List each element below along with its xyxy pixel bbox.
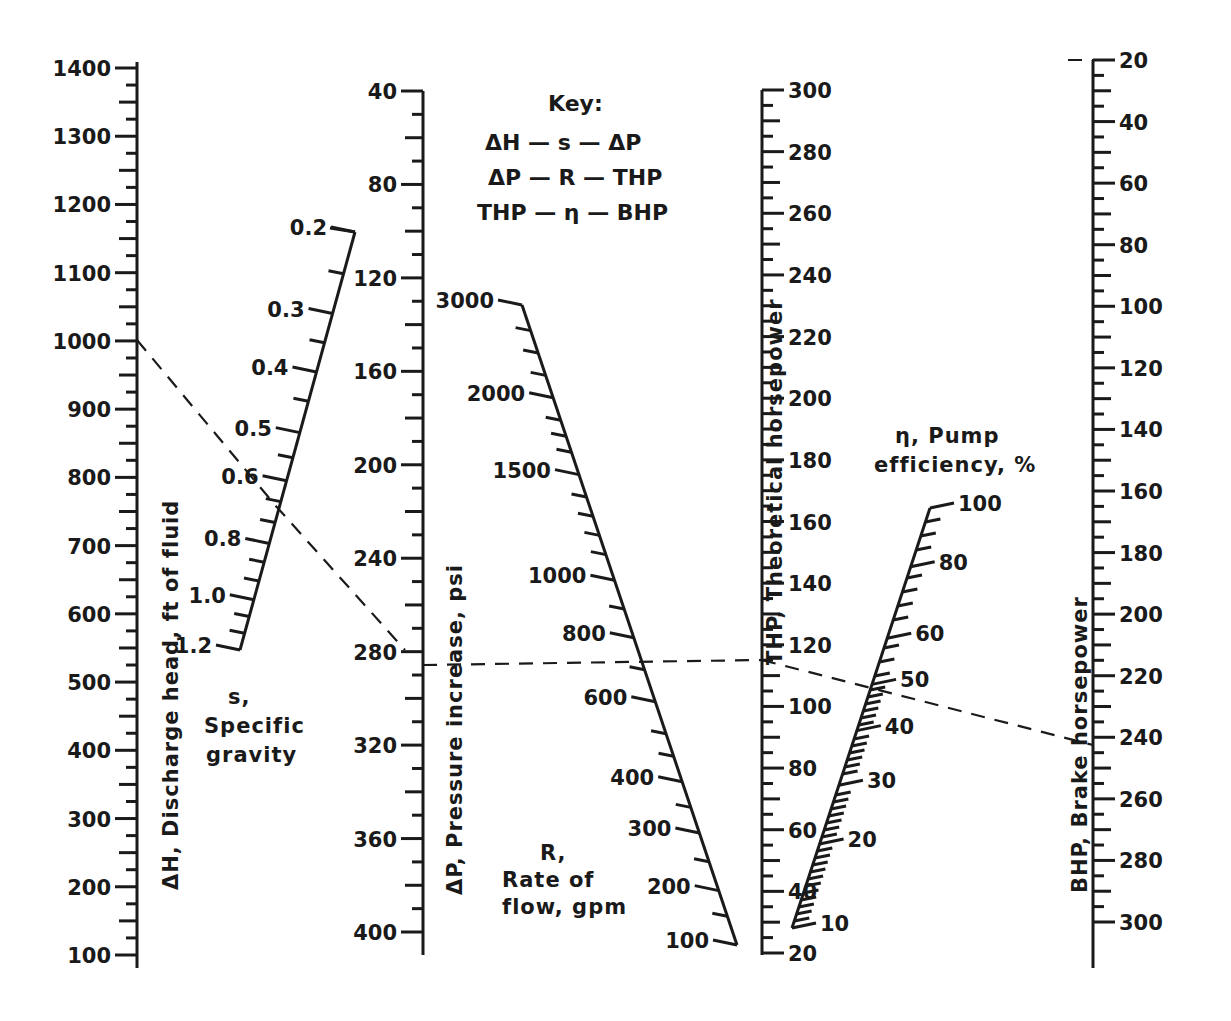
- tick-label: 200: [1119, 603, 1163, 627]
- tick-label: 120: [353, 267, 397, 291]
- tick-label: 240: [788, 264, 832, 288]
- tick-label: 20: [788, 942, 817, 966]
- tick-label: 0.2: [290, 216, 327, 240]
- tick-label: 400: [353, 921, 397, 945]
- tick-label: 40: [368, 80, 397, 104]
- tick-label: 80: [368, 173, 397, 197]
- example-solution-lines: [137, 60, 1093, 745]
- tick-label: 360: [353, 828, 397, 852]
- tick-label: 1000: [528, 564, 586, 588]
- tick-label: 2000: [467, 382, 525, 406]
- R-title-line-3: flow, gpm: [502, 895, 627, 919]
- tick-label: 0.4: [251, 356, 288, 380]
- tick-label: 260: [788, 202, 832, 226]
- tick-label: 200: [67, 876, 111, 900]
- tick-label: 1400: [53, 57, 111, 81]
- key-line-3: THP — η — BHP: [477, 200, 668, 225]
- tick-label: 10: [820, 912, 849, 936]
- tick-label: 60: [1119, 172, 1148, 196]
- dH-axis-title: ΔH, Discharge head, ft of fluid: [159, 500, 183, 890]
- tick-label: 160: [1119, 480, 1163, 504]
- tick-label: 240: [353, 547, 397, 571]
- dP-scale: 4080120160200240280320360400: [353, 80, 423, 955]
- tick-label: 1000: [53, 330, 111, 354]
- tick-label: 160: [788, 511, 832, 535]
- R-title-line-1: R,: [540, 841, 567, 865]
- tick-label: 1500: [493, 459, 551, 483]
- tick-label: 0.5: [235, 417, 272, 441]
- tick-label: 200: [788, 387, 832, 411]
- tick-label: 0.3: [267, 298, 304, 322]
- tick-label: 80: [1119, 234, 1148, 258]
- tick-label: 180: [788, 449, 832, 473]
- tick-label: 120: [788, 634, 832, 658]
- tick-label: 800: [562, 622, 606, 646]
- dH-scale: 1002003004005006007008009001000110012001…: [53, 57, 137, 968]
- tick-label: 300: [788, 79, 832, 103]
- eta-title-line-2: efficiency, %: [874, 453, 1036, 477]
- bhp-scale: 2040608010012014016018020022024026028030…: [1093, 49, 1163, 968]
- tick-label: 180: [1119, 542, 1163, 566]
- tick-label: 20: [848, 828, 877, 852]
- s-title-line-2: Specific: [204, 714, 305, 738]
- bhp-axis-title: BHP, Brake horsepower: [1068, 596, 1092, 893]
- axis-line: [240, 232, 355, 650]
- tick-label: 3000: [436, 289, 494, 313]
- tick-label: 100: [665, 929, 709, 953]
- tick-label: 260: [1119, 788, 1163, 812]
- tick-label: 40: [1119, 111, 1148, 135]
- tick-label: 600: [583, 686, 627, 710]
- tick-label: 1300: [53, 125, 111, 149]
- tick-label: 400: [67, 739, 111, 763]
- tick-label: 100: [958, 492, 1002, 516]
- specific-gravity-scale: 0.20.30.40.50.60.81.01.2: [175, 216, 355, 658]
- key-heading: Key:: [548, 91, 603, 116]
- dP-axis-title: ΔP, Pressure increase, psi: [443, 564, 467, 895]
- tick-label: 300: [628, 817, 672, 841]
- tick-label: 160: [353, 360, 397, 384]
- tick-label: 100: [788, 695, 832, 719]
- tick-label: 280: [1119, 849, 1163, 873]
- tick-label: 60: [915, 622, 944, 646]
- tick-label: 80: [939, 551, 968, 575]
- tick-label: 700: [67, 535, 111, 559]
- s-title-line-1: s,: [228, 685, 250, 709]
- tick-label: 140: [1119, 418, 1163, 442]
- tick-label: 20: [1119, 49, 1148, 73]
- tick-label: 140: [788, 572, 832, 596]
- tick-label: 220: [1119, 665, 1163, 689]
- tick-label: 100: [67, 944, 111, 968]
- tick-label: 600: [67, 603, 111, 627]
- tick-label: 0.6: [221, 465, 258, 489]
- tick-label: 1.0: [189, 584, 226, 608]
- tick-label: 0.8: [204, 527, 241, 551]
- tick-label: 80: [788, 757, 817, 781]
- tick-label: 40: [885, 715, 914, 739]
- s-title-line-3: gravity: [206, 743, 297, 767]
- nomogram: 1002003004005006007008009001000110012001…: [0, 0, 1231, 1021]
- tick-label: 200: [353, 454, 397, 478]
- tick-label: 240: [1119, 726, 1163, 750]
- tick-label: 800: [67, 466, 111, 490]
- tick-label: 280: [788, 141, 832, 165]
- tick-label: 30: [867, 769, 896, 793]
- tick-label: 220: [788, 326, 832, 350]
- tick-label: 200: [647, 875, 691, 899]
- tick-label: 280: [353, 641, 397, 665]
- tick-label: 1100: [53, 262, 111, 286]
- thp-axis-title: THP, Theoretical horsepower: [763, 298, 787, 665]
- tick-label: 300: [67, 808, 111, 832]
- tick-label: 320: [353, 734, 397, 758]
- tick-label: 400: [610, 766, 654, 790]
- R-title-line-2: Rate of: [502, 868, 595, 892]
- tick-label: 500: [67, 671, 111, 695]
- eta-title-line-1: η, Pump: [895, 424, 1000, 448]
- tick-label: 300: [1119, 911, 1163, 935]
- flow-rate-scale: 3000200015001000800600400300200100: [436, 289, 737, 953]
- key-line-2: ΔP — R — THP: [488, 165, 662, 190]
- dP-R-THP-line: [423, 660, 762, 665]
- tick-label: 100: [1119, 295, 1163, 319]
- tick-label: 50: [900, 668, 929, 692]
- tick-label: 120: [1119, 357, 1163, 381]
- key-line-1: ΔH — s — ΔP: [485, 130, 641, 155]
